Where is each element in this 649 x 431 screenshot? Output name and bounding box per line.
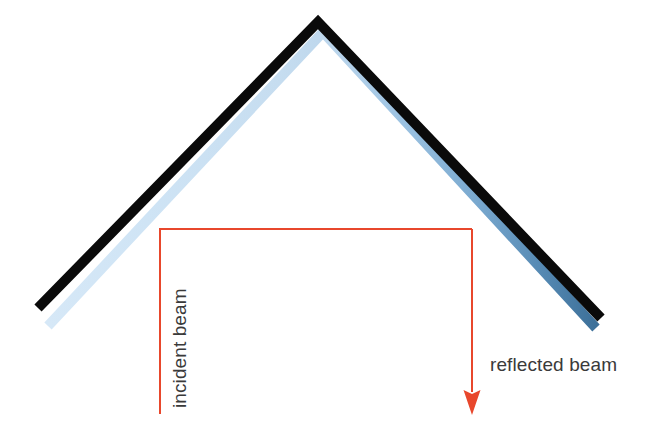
mirror-surface [38, 22, 601, 318]
reflected-ray-arrowhead [464, 390, 481, 415]
diagram-canvas: incident beam reflected beam [0, 0, 649, 431]
reflected-beam-label: reflected beam [490, 354, 617, 375]
incident-beam-label: incident beam [169, 288, 190, 408]
reflection-diagram: incident beam reflected beam [0, 0, 649, 431]
mirror-beam-band [48, 32, 596, 328]
incident-ray [160, 229, 472, 414]
reflected-ray [464, 229, 481, 415]
